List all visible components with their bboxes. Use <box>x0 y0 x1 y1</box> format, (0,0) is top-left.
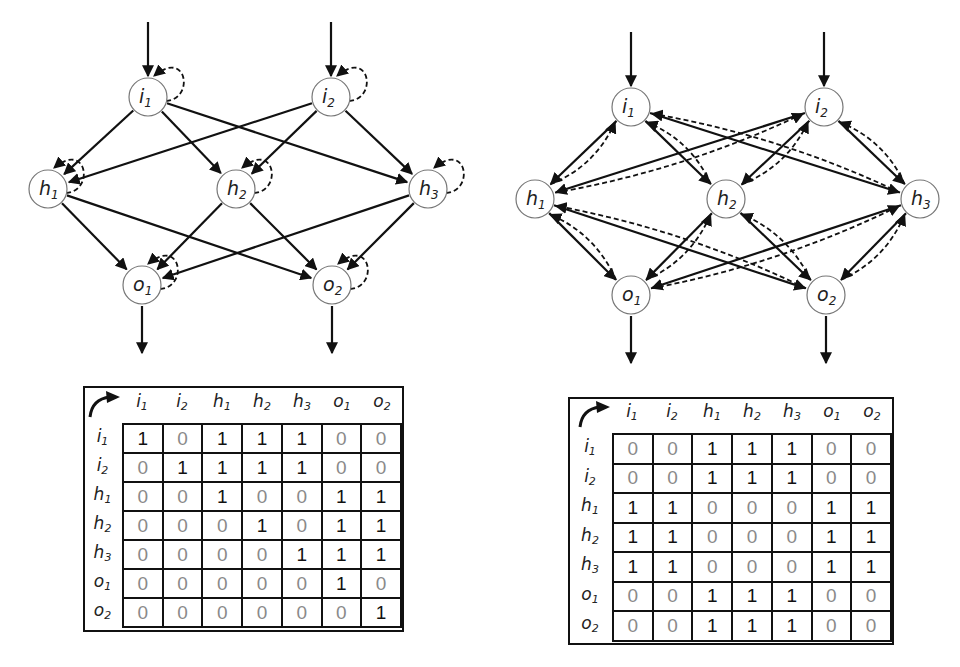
matrix-cell: 1 <box>322 511 362 540</box>
forward-edge <box>556 113 805 192</box>
row-header: o1 <box>572 584 608 606</box>
matrix-cell: 1 <box>613 493 653 523</box>
matrix-cell: 1 <box>772 582 812 612</box>
matrix-cell: 1 <box>772 434 812 464</box>
node-o2: o2 <box>807 276 845 314</box>
matrix-cell: 0 <box>163 598 203 627</box>
matrix-row: 0011100 <box>613 611 891 641</box>
matrix-cell: 1 <box>242 511 282 540</box>
matrix-cell: 0 <box>812 434 852 464</box>
matrix-cell: 0 <box>282 511 322 540</box>
matrix-cell: 0 <box>242 569 282 598</box>
matrix-row: 0011100 <box>613 464 891 494</box>
matrix-cell: 0 <box>242 482 282 511</box>
matrix-cell: 1 <box>202 424 242 453</box>
matrix-row: 1100011 <box>613 552 891 582</box>
matrix-cell: 1 <box>202 453 242 482</box>
matrix-cell: 1 <box>732 582 772 612</box>
matrix-cell: 0 <box>322 424 362 453</box>
matrix-cell: 1 <box>242 424 282 453</box>
column-header: o1 <box>812 401 852 423</box>
matrix-cell: 0 <box>361 424 401 453</box>
node-h3: h3 <box>409 170 447 208</box>
matrix-cell: 1 <box>282 453 322 482</box>
column-header: h3 <box>772 401 812 423</box>
matrix-cell: 1 <box>812 493 852 523</box>
forward-edge <box>646 213 711 279</box>
matrix-cell: 0 <box>123 453 163 482</box>
left-connectivity-matrix: i1i2h1h2h3o1o2i1i2h1h2h3o1o2101110001111… <box>83 386 404 632</box>
matrix-cell: 1 <box>282 540 322 569</box>
node-h2: h2 <box>217 170 255 208</box>
row-header: o2 <box>87 600 118 622</box>
matrix-cell: 0 <box>692 523 732 553</box>
node-h1: h1 <box>516 180 554 218</box>
forward-edge <box>157 203 222 269</box>
row-header: h1 <box>572 495 608 517</box>
matrix-cell: 0 <box>653 434 693 464</box>
matrix-cell: 0 <box>123 598 163 627</box>
matrix-row: 0000111 <box>123 540 401 569</box>
matrix-cell: 0 <box>851 464 891 494</box>
row-header: o2 <box>572 613 608 635</box>
forward-edge <box>841 213 906 279</box>
matrix-cell: 1 <box>361 598 401 627</box>
matrix-row: 0010011 <box>123 482 401 511</box>
matrix-cell: 1 <box>361 511 401 540</box>
matrix-cell: 1 <box>772 464 812 494</box>
matrix-cell: 0 <box>202 511 242 540</box>
left-network-graph: i1i2h1h2h3o1o2 <box>29 22 464 353</box>
matrix-cell: 0 <box>163 540 203 569</box>
matrix-cell: 0 <box>772 523 812 553</box>
matrix-cell: 0 <box>361 569 401 598</box>
matrix-cell: 0 <box>812 582 852 612</box>
node-o2: o2 <box>313 266 351 304</box>
matrix-cell: 0 <box>851 582 891 612</box>
matrix-cell: 0 <box>812 611 852 641</box>
matrix-cell: 0 <box>163 511 203 540</box>
column-header: h1 <box>692 401 732 423</box>
matrix-cell: 1 <box>242 453 282 482</box>
matrix-cell: 0 <box>282 569 322 598</box>
matrix-cell: 0 <box>242 540 282 569</box>
matrix-cell: 0 <box>732 552 772 582</box>
matrix-cell: 1 <box>123 424 163 453</box>
forward-edge <box>551 121 617 184</box>
node-o1: o1 <box>612 276 650 314</box>
matrix-cell: 0 <box>613 464 653 494</box>
matrix-cell: 1 <box>653 552 693 582</box>
row-header: h1 <box>87 484 118 506</box>
row-header: h3 <box>87 542 118 564</box>
column-header: o2 <box>852 401 892 423</box>
matrix-cell: 0 <box>653 611 693 641</box>
matrix-cell: 0 <box>242 598 282 627</box>
node-i2: i2 <box>312 78 350 116</box>
matrix-cell: 0 <box>163 424 203 453</box>
forward-edge <box>645 121 710 184</box>
matrix-grid: 0011100001110011000111100011110001100111… <box>612 433 892 642</box>
network-diagrams: i1i2h1h2h3o1o2 i1i2h1h2h3o1o2 <box>0 0 960 380</box>
node-h3: h3 <box>901 180 939 218</box>
matrix-row: 0000010 <box>123 569 401 598</box>
matrix-row: 1100011 <box>613 523 891 553</box>
matrix-cell: 1 <box>613 523 653 553</box>
matrix-cell: 1 <box>322 540 362 569</box>
matrix-cell: 0 <box>361 453 401 482</box>
matrix-cell: 0 <box>282 598 322 627</box>
column-header: h2 <box>732 401 772 423</box>
matrix-cell: 0 <box>163 569 203 598</box>
matrix-cell: 1 <box>851 493 891 523</box>
forward-edge <box>838 121 904 184</box>
column-header: i2 <box>652 401 692 423</box>
matrix-cell: 0 <box>613 434 653 464</box>
row-header: i2 <box>572 466 608 488</box>
forward-edge <box>163 195 409 278</box>
column-header: h2 <box>242 391 282 413</box>
forward-edge <box>69 103 312 182</box>
matrix-cell: 1 <box>812 523 852 553</box>
matrix-cell: 0 <box>282 482 322 511</box>
matrix-cell: 1 <box>692 611 732 641</box>
matrix-row: 0000001 <box>123 598 401 627</box>
matrix-cell: 0 <box>202 598 242 627</box>
matrix-cell: 1 <box>613 552 653 582</box>
